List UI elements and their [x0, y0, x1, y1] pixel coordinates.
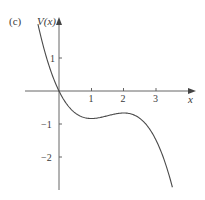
y-tick-label: −2: [41, 152, 52, 163]
potential-curve: [38, 24, 172, 187]
x-tick-label: 1: [89, 93, 94, 104]
x-tick-label: 2: [121, 93, 126, 104]
x-tick-label: 3: [153, 93, 158, 104]
x-axis-label: x: [187, 93, 193, 105]
panel-label: (c): [9, 15, 22, 28]
potential-energy-chart: (c) V(x) x 1 2 3 1 −1 −2: [0, 0, 205, 200]
y-tick-label: 1: [50, 53, 55, 64]
x-ticks: 1 2 3: [89, 88, 159, 104]
y-axis-arrow-icon: [56, 17, 62, 25]
y-axis-label: V(x): [37, 15, 56, 28]
y-tick-label: −1: [41, 119, 52, 130]
